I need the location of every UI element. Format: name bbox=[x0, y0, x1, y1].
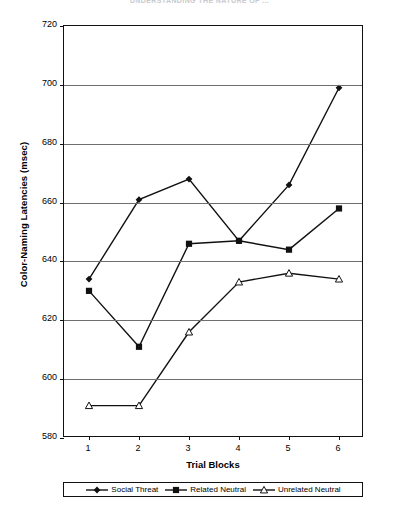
series-line bbox=[89, 208, 339, 346]
legend-entry: Unrelated Neutral bbox=[252, 485, 341, 495]
gridline bbox=[64, 261, 362, 262]
gridline bbox=[64, 203, 362, 204]
x-tick-label: 3 bbox=[173, 443, 203, 453]
legend-entry: Social Threat bbox=[85, 485, 158, 495]
y-tick-mark bbox=[60, 438, 64, 439]
x-tick-label: 1 bbox=[73, 443, 103, 453]
y-tick-label: 660 bbox=[23, 197, 57, 206]
line-chart-figure: Color-Naming Latencies (msec) 5806006206… bbox=[0, 0, 399, 515]
chart-legend: Social ThreatRelated NeutralUnrelated Ne… bbox=[63, 482, 363, 497]
x-tick-mark bbox=[89, 436, 90, 440]
series-line bbox=[89, 88, 339, 279]
plot-area bbox=[63, 25, 363, 437]
y-tick-label: 700 bbox=[23, 79, 57, 88]
y-tick-mark bbox=[60, 144, 64, 145]
gridline bbox=[64, 379, 362, 380]
x-tick-mark bbox=[139, 436, 140, 440]
x-axis-tick-labels: 123456 bbox=[63, 443, 363, 457]
data-point-marker bbox=[86, 288, 92, 294]
y-tick-label: 620 bbox=[23, 314, 57, 323]
data-point-marker bbox=[86, 276, 93, 283]
y-tick-mark bbox=[60, 203, 64, 204]
x-tick-label: 6 bbox=[323, 443, 353, 453]
y-tick-label: 680 bbox=[23, 138, 57, 147]
y-tick-mark bbox=[60, 379, 64, 380]
legend-label: Unrelated Neutral bbox=[278, 485, 341, 494]
legend-label: Social Threat bbox=[111, 485, 158, 494]
x-tick-mark bbox=[239, 436, 240, 440]
series-layer bbox=[64, 26, 364, 438]
y-tick-mark bbox=[60, 320, 64, 321]
y-tick-mark bbox=[60, 85, 64, 86]
gridline bbox=[64, 144, 362, 145]
y-axis-tick-labels: 580600620640660680700720 bbox=[23, 0, 57, 515]
data-point-marker bbox=[336, 205, 342, 211]
y-tick-mark bbox=[60, 26, 64, 27]
x-tick-label: 4 bbox=[223, 443, 253, 453]
legend-marker-icon bbox=[252, 485, 276, 495]
x-tick-mark bbox=[189, 436, 190, 440]
y-tick-label: 640 bbox=[23, 255, 57, 264]
x-tick-mark bbox=[339, 436, 340, 440]
legend-marker-icon bbox=[85, 485, 109, 495]
gridline bbox=[64, 85, 362, 86]
x-tick-label: 2 bbox=[123, 443, 153, 453]
legend-marker-icon bbox=[164, 485, 188, 495]
legend-label: Related Neutral bbox=[190, 485, 246, 494]
x-tick-label: 5 bbox=[273, 443, 303, 453]
data-point-marker bbox=[136, 344, 142, 350]
gridline bbox=[64, 320, 362, 321]
data-point-marker bbox=[236, 238, 242, 244]
x-axis-label: Trial Blocks bbox=[63, 459, 363, 470]
data-point-marker bbox=[186, 241, 192, 247]
y-tick-label: 600 bbox=[23, 373, 57, 382]
y-tick-mark bbox=[60, 261, 64, 262]
legend-entry: Related Neutral bbox=[164, 485, 246, 495]
series-line bbox=[89, 273, 339, 405]
y-tick-label: 720 bbox=[23, 20, 57, 29]
data-point-marker bbox=[286, 247, 292, 253]
y-tick-label: 580 bbox=[23, 432, 57, 441]
x-tick-mark bbox=[289, 436, 290, 440]
